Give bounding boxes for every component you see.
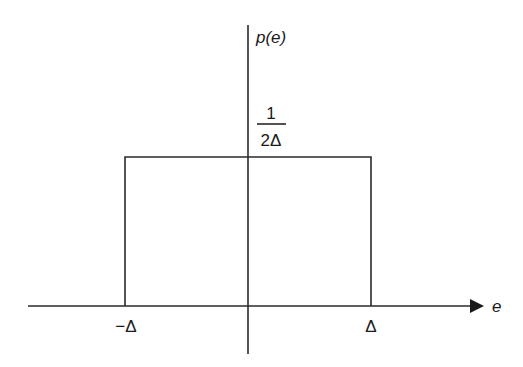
x-axis-arrowhead-icon — [470, 299, 484, 313]
x-axis-label: e — [492, 297, 501, 316]
uniform-density-diagram: p(e) 1 2Δ e −Δ Δ — [0, 0, 523, 367]
x-tick-pos-delta: Δ — [365, 317, 376, 336]
y-axis-label: p(e) — [255, 28, 286, 47]
x-tick-neg-delta: −Δ — [115, 317, 136, 336]
height-denominator: 2Δ — [261, 131, 282, 150]
height-numerator: 1 — [266, 104, 275, 123]
